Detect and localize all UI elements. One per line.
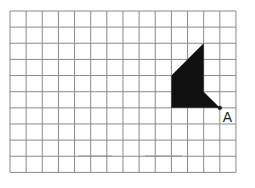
point-a-label: A	[223, 109, 233, 125]
point-a-marker	[218, 106, 222, 110]
grid-diagram: A	[0, 0, 255, 188]
